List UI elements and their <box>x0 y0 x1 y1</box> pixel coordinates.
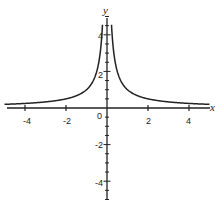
origin-label: 0 <box>97 111 102 121</box>
x-tick-label-neg4: -4 <box>23 116 31 126</box>
x-axis-label: x <box>209 101 215 113</box>
y-axis-label: y <box>102 4 108 16</box>
curve-right-branch <box>112 25 210 105</box>
y-tick-label-2: 2 <box>98 70 103 80</box>
curve-left-branch <box>5 25 103 105</box>
x-tick-label-2: 2 <box>146 116 151 126</box>
x-tick-label-4: 4 <box>186 116 191 126</box>
y-tick-label-neg2: -2 <box>95 140 103 150</box>
chart-canvas: x y 0 -4 -2 2 4 4 2 -2 -4 <box>0 0 218 207</box>
x-tick-label-neg2: -2 <box>63 116 71 126</box>
y-tick-label-neg4: -4 <box>95 178 103 188</box>
y-tick-label-4: 4 <box>98 31 103 41</box>
